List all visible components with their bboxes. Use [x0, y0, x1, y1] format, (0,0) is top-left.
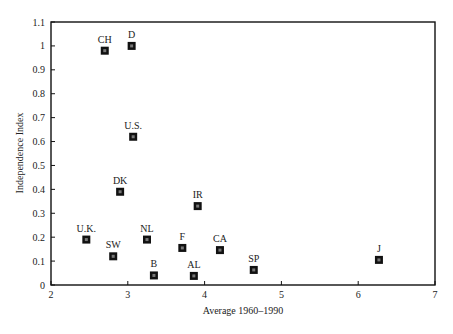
x-tick-label: 6 [356, 289, 361, 300]
data-point: DK [113, 175, 128, 196]
y-tick-label: 0.1 [33, 256, 46, 267]
data-points: CHDU.S.DKIRU.K.SWNLBFCAALSPJ [77, 29, 383, 280]
point-label: U.K. [77, 223, 96, 234]
y-axis-title: Independence Index [14, 113, 25, 194]
data-point: SW [106, 239, 122, 260]
point-label: AL [187, 259, 200, 270]
x-tick-label: 4 [202, 289, 207, 300]
point-label: J [377, 243, 381, 254]
point-label: CH [98, 34, 112, 45]
point-label: IR [193, 189, 203, 200]
data-point: B [150, 258, 158, 279]
data-point: D [128, 29, 136, 50]
y-tick-label: 0 [40, 280, 45, 291]
y-tick-label: 1.1 [33, 17, 46, 28]
point-label: D [128, 29, 135, 40]
y-tick-label: 0.6 [33, 136, 46, 147]
point-label: CA [213, 233, 228, 244]
data-point: NL [140, 223, 153, 244]
y-tick-label: 0.8 [33, 88, 46, 99]
y-tick-label: 1 [40, 40, 45, 51]
x-tick-label: 5 [279, 289, 284, 300]
point-label: B [151, 258, 158, 269]
point-label: SW [106, 239, 122, 250]
point-label: DK [113, 175, 128, 186]
point-label: NL [140, 223, 153, 234]
y-tick-label: 0.2 [33, 232, 46, 243]
y-tick-label: 0.9 [33, 64, 46, 75]
data-point: IR [193, 189, 203, 210]
y-tick-label: 0.5 [33, 160, 46, 171]
point-label: SP [248, 253, 260, 264]
y-tick-label: 0.7 [33, 112, 46, 123]
data-point: F [178, 231, 186, 252]
data-point: CA [213, 233, 228, 254]
x-tick-label: 3 [125, 289, 130, 300]
x-tick-label: 2 [49, 289, 54, 300]
scatter-chart: 00.10.20.30.40.50.60.70.80.911.1 234567 … [0, 0, 453, 334]
x-tick-label: 7 [433, 289, 438, 300]
point-label: F [180, 231, 186, 242]
data-point: U.K. [77, 223, 96, 244]
data-point: AL [187, 259, 200, 280]
x-axis: 234567 [49, 281, 438, 300]
data-point: CH [98, 34, 112, 55]
y-tick-label: 0.3 [33, 208, 46, 219]
data-point: SP [248, 253, 260, 274]
data-point: J [375, 243, 383, 264]
point-label: U.S. [124, 120, 142, 131]
y-tick-label: 0.4 [33, 184, 46, 195]
x-axis-title: Average 1960–1990 [203, 305, 284, 316]
data-point: U.S. [124, 120, 142, 141]
